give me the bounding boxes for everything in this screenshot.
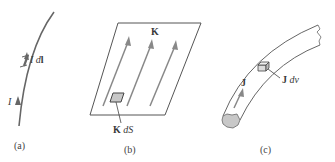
label-k-ds: K dS <box>113 125 133 135</box>
label-k: K <box>151 27 159 37</box>
caption-c: (c) <box>260 145 271 155</box>
conductor-cross-section <box>222 114 240 128</box>
caption-b: (b) <box>124 145 136 155</box>
label-j: J <box>241 78 246 88</box>
panel-b-sheet <box>90 23 201 123</box>
k-arrow-icon <box>148 39 154 49</box>
k-arrow-icon <box>172 40 178 50</box>
dv-element <box>258 65 266 71</box>
label-j-dv: J dv <box>282 75 299 85</box>
label-current-i: I <box>8 97 11 107</box>
k-arrow-icon <box>125 36 131 46</box>
caption-a: (a) <box>14 141 25 151</box>
ds-element <box>110 93 124 102</box>
label-i-dl: I dl <box>30 55 44 65</box>
current-arrow-icon <box>15 96 21 105</box>
j-arrow-icon <box>238 88 244 97</box>
panel-a-filament <box>15 12 54 126</box>
panel-c-conductor <box>222 25 321 128</box>
